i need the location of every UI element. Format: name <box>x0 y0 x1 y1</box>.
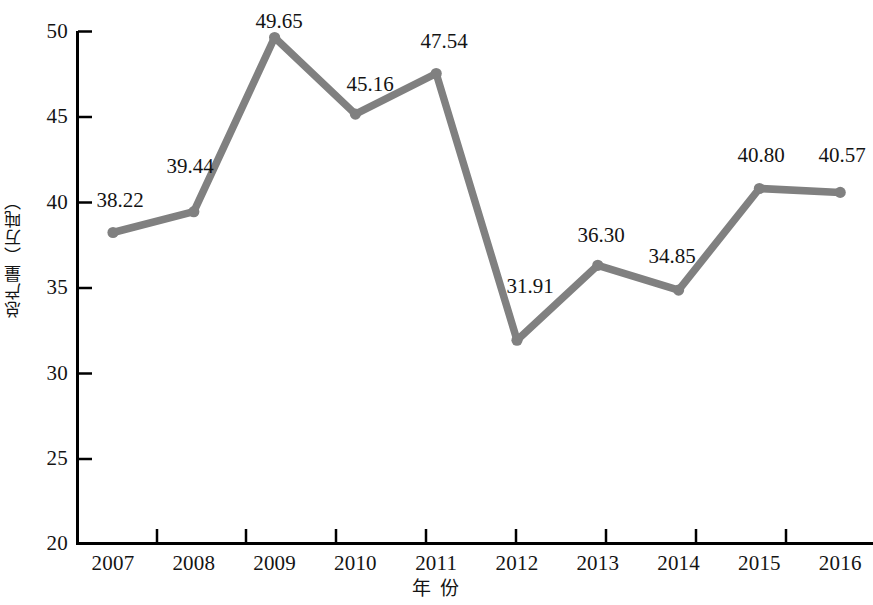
data-series-line <box>113 38 840 341</box>
data-point-marker <box>107 227 118 238</box>
x-tick-label: 2012 <box>472 551 562 575</box>
data-point-marker <box>754 183 765 194</box>
data-point-marker <box>511 335 522 346</box>
x-tick-label: 2016 <box>795 551 873 575</box>
y-axis-ticks <box>78 32 92 460</box>
x-tick-label: 2015 <box>714 551 804 575</box>
point-label: 38.22 <box>80 189 160 211</box>
x-tick-label: 2010 <box>310 551 400 575</box>
data-point-marker <box>673 285 684 296</box>
x-axis-ticks <box>157 529 786 543</box>
axis-lines <box>76 31 873 544</box>
data-point-marker <box>431 68 442 79</box>
point-label: 34.85 <box>632 245 712 267</box>
point-label: 36.30 <box>561 224 641 246</box>
x-tick-label: 2008 <box>149 551 239 575</box>
line-chart: 50 45 40 35 30 25 20 总产量（万吨） <box>0 0 873 605</box>
data-point-marker <box>269 32 280 43</box>
point-label: 49.65 <box>239 10 319 32</box>
point-label: 40.57 <box>802 144 873 166</box>
x-tick-label: 2013 <box>553 551 643 575</box>
point-label: 39.44 <box>150 155 230 177</box>
data-point-marker <box>592 260 603 271</box>
x-axis-title: 年 份 <box>0 578 873 600</box>
point-label: 40.80 <box>721 144 801 166</box>
x-tick-label: 2009 <box>230 551 320 575</box>
data-point-marker <box>350 109 361 120</box>
x-tick-label: 2011 <box>391 551 481 575</box>
x-tick-label: 2007 <box>68 551 158 575</box>
data-point-marker <box>835 187 846 198</box>
point-label: 31.91 <box>490 275 570 297</box>
x-tick-label: 2014 <box>634 551 724 575</box>
data-point-marker <box>188 206 199 217</box>
data-point-markers <box>107 32 845 346</box>
point-label: 45.16 <box>330 73 410 95</box>
point-label: 47.54 <box>404 30 484 52</box>
x-axis-tick-labels: 2007 2008 2009 2010 2011 2012 2013 2014 … <box>0 551 873 581</box>
plot-area <box>0 0 873 605</box>
